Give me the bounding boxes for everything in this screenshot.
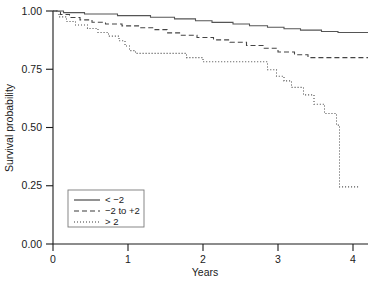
legend-label-0: < −2 <box>105 194 124 205</box>
x-axis-title: Years <box>192 266 218 278</box>
survival-plot: 0.000.250.500.751.00 01234 Years Surviva… <box>0 0 374 284</box>
y-tick-group: 0.000.250.500.751.00 <box>22 5 53 250</box>
x-tick-label: 2 <box>200 253 206 265</box>
y-axis: 0.000.250.500.751.00 <box>22 5 53 250</box>
x-tick-label: 4 <box>350 253 356 265</box>
legend-label-2: > 2 <box>105 216 118 227</box>
x-axis: 01234 <box>50 244 368 265</box>
y-axis-title: Survival probability <box>3 83 15 172</box>
chart-svg: 0.000.250.500.751.00 01234 Years Surviva… <box>0 0 374 284</box>
x-tick-label: 0 <box>50 253 56 265</box>
x-tick-group: 01234 <box>50 244 356 265</box>
legend-label-1: −2 to +2 <box>105 205 140 216</box>
y-tick-label: 0.00 <box>22 238 43 250</box>
chart-legend: < −2−2 to +2> 2 <box>68 190 144 227</box>
y-tick-label: 0.25 <box>22 179 43 191</box>
series-line-dashed <box>53 11 368 58</box>
x-tick-label: 3 <box>275 253 281 265</box>
x-tick-label: 1 <box>125 253 131 265</box>
y-tick-label: 0.50 <box>22 121 43 133</box>
y-tick-label: 1.00 <box>22 5 43 17</box>
y-tick-label: 0.75 <box>22 63 43 75</box>
series-layer <box>53 11 368 187</box>
